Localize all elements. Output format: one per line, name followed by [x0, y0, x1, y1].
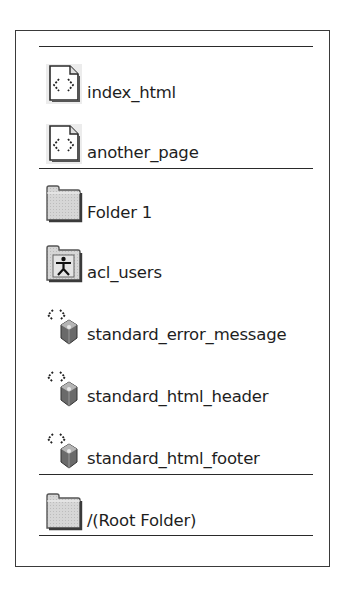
list-item-root-folder[interactable]: /(Root Folder)	[44, 488, 196, 532]
divider-lower	[39, 474, 313, 475]
list-item-standard-error-message[interactable]: standard_error_message	[44, 302, 286, 346]
list-item-acl-users[interactable]: acl_users	[44, 240, 162, 284]
folder-icon	[44, 490, 84, 532]
divider-bottom	[39, 535, 313, 536]
item-label[interactable]: standard_html_header	[87, 387, 268, 408]
item-label[interactable]: index_html	[87, 83, 176, 104]
user-folder-icon	[44, 242, 84, 284]
divider-top	[39, 46, 313, 47]
dtml-document-icon	[44, 62, 84, 104]
folder-icon	[44, 182, 84, 224]
list-item-standard-html-footer[interactable]: standard_html_footer	[44, 426, 260, 470]
list-item-index-html[interactable]: index_html	[44, 60, 176, 104]
dtml-method-icon	[44, 304, 84, 346]
item-label[interactable]: Folder 1	[87, 203, 152, 224]
list-item-folder-1[interactable]: Folder 1	[44, 180, 152, 224]
item-label[interactable]: acl_users	[87, 263, 162, 284]
divider-middle	[39, 168, 313, 169]
item-label[interactable]: standard_html_footer	[87, 449, 260, 470]
object-list-panel	[15, 30, 330, 567]
item-label[interactable]: another_page	[87, 143, 199, 164]
item-label[interactable]: /(Root Folder)	[87, 511, 196, 532]
dtml-method-icon	[44, 428, 84, 470]
dtml-method-icon	[44, 366, 84, 408]
item-label[interactable]: standard_error_message	[87, 325, 286, 346]
dtml-document-icon	[44, 122, 84, 164]
list-item-another-page[interactable]: another_page	[44, 120, 199, 164]
list-item-standard-html-header[interactable]: standard_html_header	[44, 364, 268, 408]
